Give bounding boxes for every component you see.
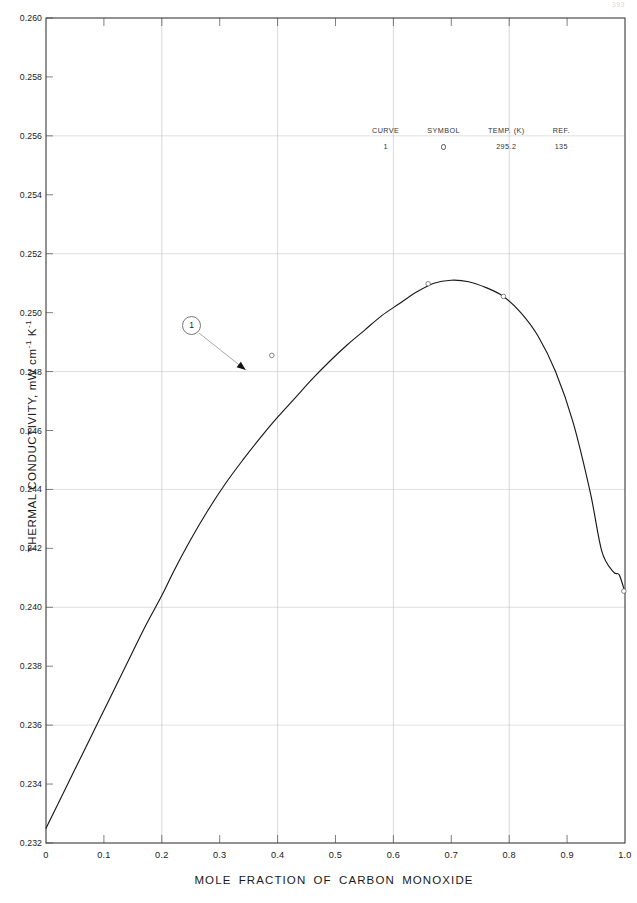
open-circle-icon [441,144,447,150]
data-curve-1 [46,280,625,828]
legend-header-symbol: SYMBOL [413,126,474,142]
legend-header-ref: REF. [539,126,584,142]
figure-page: 393 THERMAL CONDUCTIVITY, mW cm-1 K-1 MO… [0,0,637,903]
curve-callout-1: 1 [182,316,201,335]
legend-cell-temp: 295.2 [474,142,539,151]
data-point-marker [426,281,431,286]
legend-header-curve: CURVE [358,126,413,142]
data-point-marker [501,294,506,299]
legend-row: 1 295.2 135 [358,142,584,151]
legend-cell-symbol [413,142,474,151]
legend-cell-ref: 135 [539,142,584,151]
data-point-marker [270,353,275,358]
legend-cell-curve: 1 [358,142,413,151]
callout-arrowhead [237,362,246,370]
legend: CURVE SYMBOL TEMP. (K) REF. 1 295.2 135 [358,126,584,151]
legend-table: CURVE SYMBOL TEMP. (K) REF. 1 295.2 135 [358,126,584,151]
legend-header-row: CURVE SYMBOL TEMP. (K) REF. [358,126,584,142]
legend-header-temp: TEMP. (K) [474,126,539,142]
data-point-marker [622,589,627,594]
thermal-conductivity-chart: THERMAL CONDUCTIVITY, mW cm-1 K-1 MOLE F… [0,0,637,903]
